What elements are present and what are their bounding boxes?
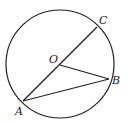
chord-ab [23,79,109,101]
label-b: B [111,74,120,87]
label-c: C [99,14,108,27]
geometry-diagram: O C B A [0,0,127,122]
label-a: A [14,105,23,118]
diameter-ac [23,27,97,101]
radius-ob [60,65,109,79]
label-o: O [49,53,58,66]
